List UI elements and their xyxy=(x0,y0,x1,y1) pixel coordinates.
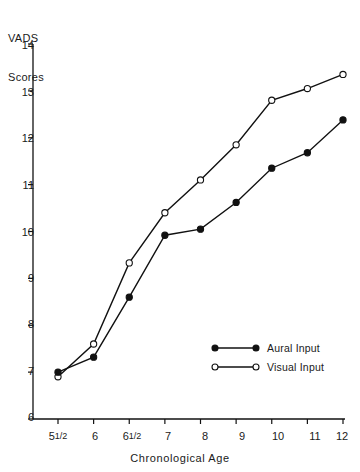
data-point xyxy=(269,165,275,171)
data-point xyxy=(162,232,168,238)
y-axis-title-line2: Scores xyxy=(8,71,44,84)
y-tick-label-11: 11 xyxy=(12,179,34,191)
y-tick-label-6: 6 xyxy=(12,411,34,423)
x-tick-label-12: 12 xyxy=(320,430,360,442)
y-tick-label-12: 12 xyxy=(12,132,34,144)
x-axis-title: Chronological Age xyxy=(0,452,360,465)
legend-marker-aural-left xyxy=(212,345,218,351)
data-point xyxy=(340,117,346,123)
data-point xyxy=(91,354,97,360)
data-point xyxy=(304,150,310,156)
data-point xyxy=(269,97,275,103)
data-point xyxy=(126,294,132,300)
data-point xyxy=(340,71,346,77)
data-point xyxy=(91,341,97,347)
data-point xyxy=(126,260,132,266)
legend-marks xyxy=(212,345,259,370)
chart-figure: VADS Scores 14 13 12 11 10 9 8 7 6 51/2 … xyxy=(0,0,360,472)
y-tick-label-10: 10 xyxy=(12,226,34,238)
legend-marker-visual-left xyxy=(212,364,218,370)
x-axis-ticks xyxy=(58,419,343,424)
y-tick-label-14: 14 xyxy=(12,39,34,51)
legend-marker-visual-right xyxy=(253,364,259,370)
data-point xyxy=(304,85,310,91)
data-point xyxy=(233,142,239,148)
x-tick-main-6: 10 xyxy=(272,430,284,442)
legend-label-aural: Aural Input xyxy=(267,342,320,354)
x-tick-main-3: 7 xyxy=(165,430,171,442)
x-tick-main-1: 6 xyxy=(92,430,98,442)
legend-label-visual: Visual Input xyxy=(267,361,324,373)
series-line-aural-input xyxy=(58,120,343,372)
x-tick-frac-2: 1/2 xyxy=(129,431,142,441)
legend-marker-aural-right xyxy=(253,345,259,351)
y-tick-label-13: 13 xyxy=(12,86,34,98)
data-point xyxy=(233,199,239,205)
data-point xyxy=(197,226,203,232)
x-tick-main-4: 8 xyxy=(202,430,208,442)
data-point xyxy=(162,210,168,216)
series-aural-input xyxy=(55,117,346,375)
x-tick-main-8: 12 xyxy=(336,430,348,442)
x-tick-main-5: 9 xyxy=(239,430,245,442)
x-tick-main-7: 11 xyxy=(309,430,320,442)
x-tick-frac-0: 1/2 xyxy=(55,431,68,441)
y-tick-label-9: 9 xyxy=(12,272,34,284)
data-point xyxy=(197,177,203,183)
y-tick-label-7: 7 xyxy=(12,365,34,377)
y-tick-label-8: 8 xyxy=(12,318,34,330)
data-point xyxy=(55,369,61,375)
plot-area xyxy=(0,0,360,472)
